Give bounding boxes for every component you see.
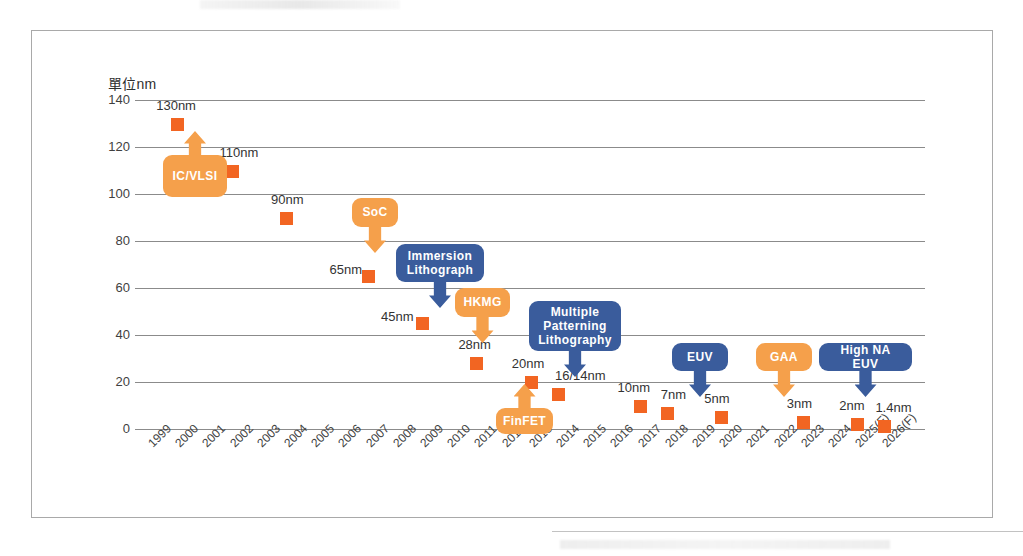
annotation-callout-label: FinFET	[496, 408, 553, 434]
y-axis-tick-label: 40	[86, 328, 130, 341]
annotation-callout: SoC	[352, 198, 398, 227]
x-axis-tick-label: 2003	[255, 422, 282, 449]
data-marker	[797, 416, 810, 429]
y-axis-tick-label: 120	[86, 140, 130, 153]
x-axis-tick-label: 2001	[200, 422, 227, 449]
x-axis-tick-label: 2021	[744, 422, 771, 449]
x-axis-tick-label: 2009	[418, 422, 445, 449]
gridline	[135, 288, 925, 289]
data-marker	[416, 317, 429, 330]
data-marker	[280, 212, 293, 225]
x-axis-tick-label: 2008	[391, 422, 418, 449]
annotation-arrow-icon	[429, 282, 451, 308]
annotation-callout-label: IC/VLSI	[163, 155, 227, 197]
data-point-label: 10nm	[618, 381, 651, 394]
gridline	[135, 194, 925, 195]
x-axis-tick-label: 2004	[282, 422, 309, 449]
x-axis-tick-label: 2002	[228, 422, 255, 449]
x-axis-tick-label: 2016	[608, 422, 635, 449]
annotation-arrow-icon	[364, 227, 386, 253]
x-axis-tick-label: 2000	[173, 422, 200, 449]
gridline	[135, 241, 925, 242]
y-axis-tick-label: 80	[86, 234, 130, 247]
data-marker	[171, 118, 184, 131]
x-axis-tick-label: 2006	[336, 422, 363, 449]
x-axis-tick-label: 2010	[445, 422, 472, 449]
data-point-label: 65nm	[330, 263, 363, 276]
x-axis-tick-label: 2020	[717, 422, 744, 449]
x-axis-tick-label: 1999	[146, 422, 173, 449]
x-axis-tick-label: 2022	[772, 422, 799, 449]
x-axis-tick-label: 2024	[826, 422, 853, 449]
x-axis-tick-label: 2018	[663, 422, 690, 449]
annotation-callout: FinFET	[496, 408, 553, 434]
y-axis-tick-label: 60	[86, 281, 130, 294]
annotation-callout: Immersion Lithograph	[396, 244, 484, 282]
x-axis-tick-label: 2007	[364, 422, 391, 449]
data-point-label: 5nm	[704, 392, 729, 405]
data-marker	[226, 165, 239, 178]
data-marker	[851, 418, 864, 431]
y-axis-tick-label: 100	[86, 187, 130, 200]
y-axis-tick-label: 0	[86, 422, 130, 435]
data-marker	[878, 420, 891, 433]
annotation-callout: IC/VLSI	[163, 155, 227, 197]
annotation-callout: Multiple Patterning Lithography	[529, 301, 621, 351]
data-point-label: 90nm	[271, 193, 304, 206]
annotation-callout: High NA EUV	[819, 343, 912, 371]
x-axis-tick-label: 2014	[554, 422, 581, 449]
data-marker	[715, 411, 728, 424]
annotation-callout: HKMG	[455, 288, 510, 317]
data-point-label: 130nm	[156, 99, 196, 112]
data-point-label: 28nm	[458, 338, 491, 351]
y-axis-tick-label: 20	[86, 375, 130, 388]
annotation-callout-label: SoC	[352, 198, 398, 227]
annotation-arrow-icon	[184, 131, 206, 157]
annotation-callout-label: High NA EUV	[819, 343, 912, 371]
data-marker	[470, 357, 483, 370]
chart-plot-area: 單位nm 140120100806040200 1999200020012002…	[0, 0, 1023, 556]
data-marker	[362, 270, 375, 283]
gridline	[135, 100, 925, 101]
annotation-arrow-icon	[855, 371, 877, 397]
annotation-arrow-icon	[773, 371, 795, 397]
annotation-callout-label: HKMG	[455, 288, 510, 317]
data-marker	[634, 400, 647, 413]
data-point-label: 7nm	[661, 388, 686, 401]
data-point-label: 20nm	[512, 357, 545, 370]
annotation-callout: EUV	[672, 343, 728, 371]
annotation-callout-label: Multiple Patterning Lithography	[529, 301, 621, 351]
x-axis-tick-label: 2005	[309, 422, 336, 449]
annotation-callout-label: GAA	[756, 343, 812, 371]
data-point-label: 45nm	[381, 310, 414, 323]
x-axis-tick-label: 2017	[636, 422, 663, 449]
annotation-callout: GAA	[756, 343, 812, 371]
annotation-callout-label: Immersion Lithograph	[396, 244, 484, 282]
annotation-callout-label: EUV	[672, 343, 728, 371]
data-marker	[661, 407, 674, 420]
data-marker	[552, 388, 565, 401]
y-axis-title: 單位nm	[108, 73, 156, 93]
data-point-label: 2nm	[839, 399, 864, 412]
data-point-label: 1.4nm	[875, 401, 911, 414]
data-point-label: 3nm	[787, 397, 812, 410]
x-axis-tick-label: 2015	[581, 422, 608, 449]
y-axis-tick-label: 140	[86, 93, 130, 106]
x-axis-tick-label: 2019	[690, 422, 717, 449]
